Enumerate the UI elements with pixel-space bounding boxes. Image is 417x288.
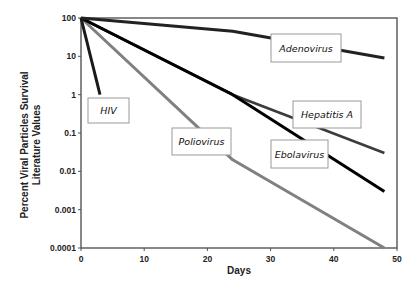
y-axis-title: Percent Viral Particles Survival Literat… bbox=[19, 71, 42, 218]
y-tick-label: 0.01 bbox=[59, 166, 76, 176]
series-label-hiv: HIV bbox=[88, 98, 129, 123]
label-text: HIV bbox=[100, 105, 118, 116]
label-text: Adenovirus bbox=[278, 43, 332, 54]
label-text: Ebolavirus bbox=[275, 149, 324, 160]
x-tick-label: 20 bbox=[203, 254, 213, 264]
x-tick-label: 0 bbox=[79, 254, 84, 264]
series-label-adenovirus: Adenovirus bbox=[271, 34, 341, 62]
y-axis-title-line1: Percent Viral Particles Survival bbox=[19, 71, 30, 218]
x-tick-label: 10 bbox=[139, 254, 149, 264]
x-tick-label: 30 bbox=[266, 254, 276, 264]
y-tick-label: 100 bbox=[62, 13, 76, 23]
series-labels: HIVAdenovirusHepatitis AEbolavirusPoliov… bbox=[88, 34, 361, 168]
x-axis-title: Days bbox=[227, 265, 251, 276]
x-tick-label: 50 bbox=[392, 254, 402, 264]
label-text: Poliovirus bbox=[179, 136, 225, 147]
series-label-hepatitis-a: Hepatitis A bbox=[293, 101, 361, 128]
survival-chart: 1001010.10.010.0010.0001 01020304050 HIV… bbox=[0, 0, 417, 288]
x-axis-ticks: 01020304050 bbox=[79, 248, 402, 264]
y-tick-label: 1 bbox=[71, 90, 76, 100]
label-text: Hepatitis A bbox=[301, 109, 353, 120]
y-tick-label: 0.001 bbox=[55, 205, 77, 215]
series-line-hiv bbox=[81, 18, 100, 95]
y-tick-label: 0.0001 bbox=[50, 243, 76, 253]
x-tick-label: 40 bbox=[329, 254, 339, 264]
y-axis-ticks: 1001010.10.010.0010.0001 bbox=[50, 13, 81, 253]
series-label-ebolavirus: Ebolavirus bbox=[271, 140, 328, 168]
y-tick-label: 0.1 bbox=[64, 128, 76, 138]
series-label-poliovirus: Poliovirus bbox=[172, 128, 231, 155]
y-axis-title-line2: Literature Values bbox=[31, 104, 42, 185]
y-tick-label: 10 bbox=[67, 51, 77, 61]
